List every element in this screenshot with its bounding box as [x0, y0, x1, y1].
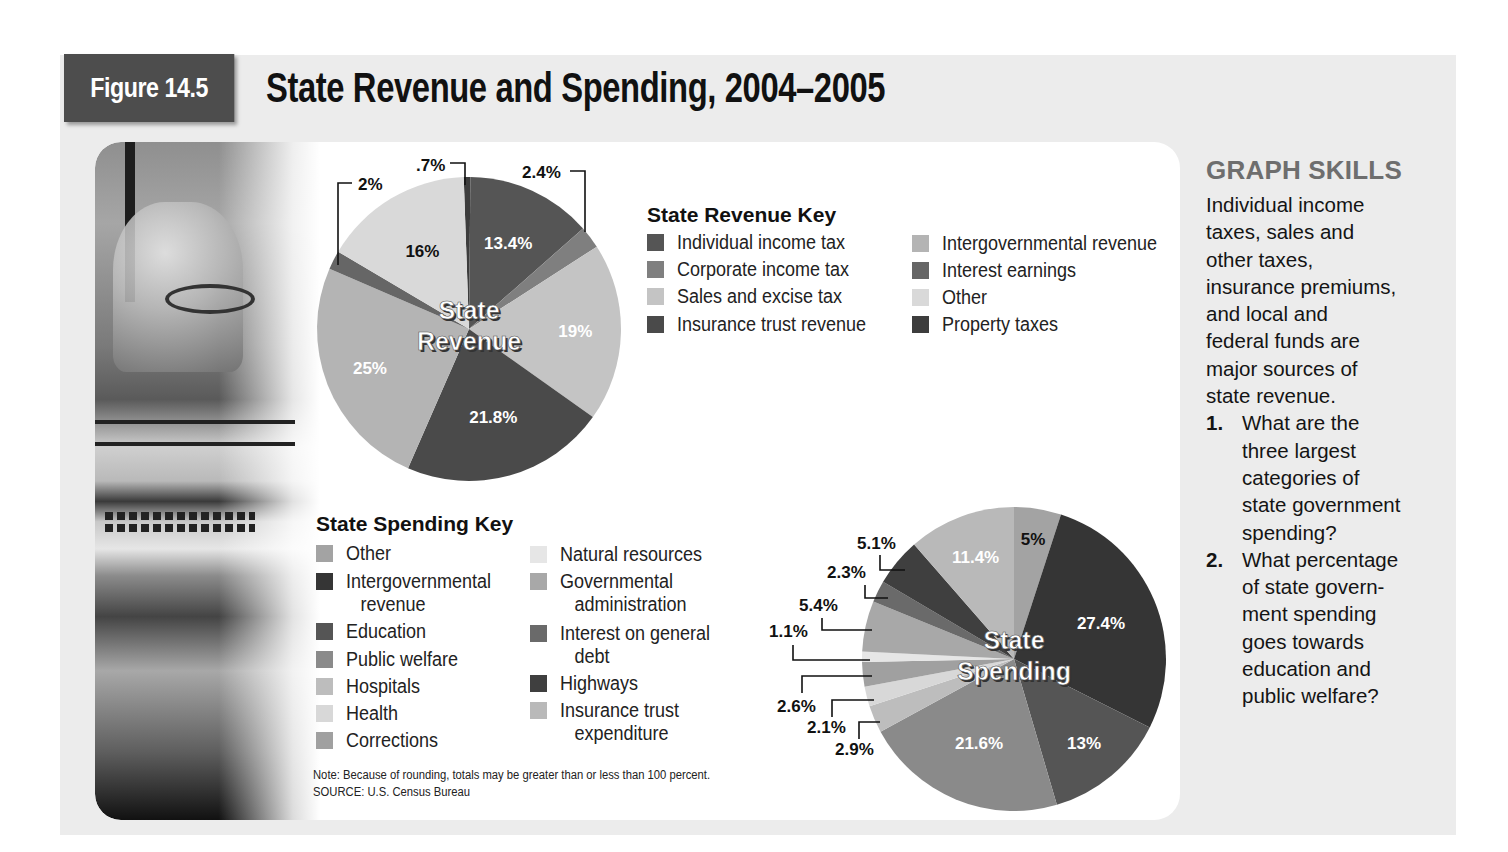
source-line: SOURCE: U.S. Census Bureau [313, 784, 710, 801]
pie-center-label: Revenue [417, 327, 521, 355]
legend-swatch [316, 623, 333, 640]
legend-label-continued: expenditure [560, 722, 679, 745]
pie-center-label: Spending [957, 657, 1071, 685]
legend-label: Property taxes [942, 313, 1058, 336]
callout-value-label: 2% [358, 175, 383, 194]
revenue-key-title: State Revenue Key [647, 203, 836, 227]
legend-swatch [912, 316, 929, 333]
legend-swatch [316, 705, 333, 722]
question-text: What percentageof state govern-ment spen… [1242, 546, 1398, 710]
callout-value-label: 5.1% [857, 534, 896, 553]
legend-label: Interest earnings [942, 259, 1076, 282]
legend-swatch [316, 651, 333, 668]
legend-swatch [530, 573, 547, 590]
slice-value-label: 21.6% [955, 734, 1003, 753]
callout-value-label: 5.4% [799, 596, 838, 615]
graph-skills-text-line: major sources of [1206, 355, 1441, 382]
legend-swatch [530, 702, 547, 719]
graph-skills-questions: 1.What are thethree largestcategories of… [1206, 409, 1441, 709]
leader-line [859, 722, 880, 739]
callout-value-label: .7% [416, 156, 445, 175]
graph-skills-text-line: insurance premiums, [1206, 273, 1441, 300]
leader-line [822, 618, 872, 630]
graph-skills-text-line: other taxes, [1206, 246, 1441, 273]
legend-label: Sales and excise tax [677, 285, 842, 308]
leader-line [802, 676, 872, 693]
leader-line [793, 645, 870, 660]
legend-label: Interest on generaldebt [560, 622, 710, 668]
legend-swatch [647, 316, 664, 333]
legend-label: Education [346, 620, 426, 643]
callout-value-label: 2.4% [522, 163, 561, 182]
pie-center-label: State [983, 626, 1044, 654]
slice-value-label: 19% [558, 322, 592, 341]
legend-swatch [912, 289, 929, 306]
legend-label: Natural resources [560, 543, 702, 566]
spending-key-title: State Spending Key [316, 512, 513, 536]
legend-label: Health [346, 702, 398, 725]
pie-center-label: State [438, 296, 499, 324]
slice-value-label: 21.8% [469, 408, 517, 427]
legend-label: Intergovernmentalrevenue [346, 570, 491, 616]
callout-value-label: 2.3% [827, 563, 866, 582]
legend-label: Insurance trust revenue [677, 313, 866, 336]
graph-skills-text-line: federal funds are [1206, 327, 1441, 354]
legend-swatch [530, 546, 547, 563]
callout-value-label: 2.1% [807, 718, 846, 737]
graph-skills-text-line: Individual income [1206, 191, 1441, 218]
legend-label: Hospitals [346, 675, 420, 698]
legend-swatch [316, 573, 333, 590]
graph-skills-question: 1.What are thethree largestcategories of… [1206, 409, 1441, 545]
graph-skills-text-line: state revenue. [1206, 382, 1441, 409]
legend-label: Highways [560, 672, 638, 695]
state-spending-pie: 5%27.4%13%21.6%11.4%StateStateSpendingSp… [862, 507, 1166, 811]
slice-value-label: 16% [405, 242, 439, 261]
question-number: 1. [1206, 409, 1242, 545]
callout-value-label: 2.9% [835, 740, 874, 759]
legend-swatch [912, 235, 929, 252]
slice-value-label: 27.4% [1077, 614, 1125, 633]
slice-value-label: 11.4% [952, 548, 999, 567]
callout-value-label: 2.6% [777, 697, 816, 716]
source-note: Note: Because of rounding, totals may be… [313, 767, 710, 801]
legend-label: Insurance trustexpenditure [560, 699, 679, 745]
legend-label: Other [942, 286, 987, 309]
slice-value-label: 5% [1021, 530, 1046, 549]
state-revenue-pie: 13.4%19%21.8%25%16%StateStateRevenueReve… [317, 177, 621, 481]
legend-swatch [530, 625, 547, 642]
slice-value-label: 13% [1067, 734, 1101, 753]
question-text: What are thethree largestcategories ofst… [1242, 409, 1400, 545]
graph-skills-body: Individual incometaxes, sales andother t… [1206, 191, 1441, 409]
legend-label: Governmentaladministration [560, 570, 686, 616]
legend-label-continued: administration [560, 593, 686, 616]
legend-label-continued: revenue [346, 593, 491, 616]
legend-label: Other [346, 542, 391, 565]
legend-swatch [530, 675, 547, 692]
graph-skills-title: GRAPH SKILLS [1206, 153, 1441, 187]
legend-label: Corporate income tax [677, 258, 849, 281]
legend-swatch [316, 732, 333, 749]
graph-skills-text-line: and local and [1206, 300, 1441, 327]
question-number: 2. [1206, 546, 1242, 710]
legend-label: Intergovernmental revenue [942, 232, 1157, 255]
slice-value-label: 13.4% [484, 234, 532, 253]
legend-swatch [912, 262, 929, 279]
legend-swatch [316, 545, 333, 562]
legend-label: Corrections [346, 729, 438, 752]
graph-skills-text-line: taxes, sales and [1206, 218, 1441, 245]
graph-skills-sidebar: GRAPH SKILLS Individual incometaxes, sal… [1206, 153, 1441, 710]
legend-label: Individual income tax [677, 231, 845, 254]
callout-value-label: 1.1% [769, 622, 808, 641]
rounding-note: Note: Because of rounding, totals may be… [313, 767, 710, 784]
legend-swatch [647, 288, 664, 305]
leader-line [832, 700, 874, 717]
slice-value-label: 25% [353, 359, 387, 378]
graph-skills-question: 2.What percentageof state govern-ment sp… [1206, 546, 1441, 710]
legend-label: Public welfare [346, 648, 458, 671]
legend-swatch [647, 261, 664, 278]
legend-label-continued: debt [560, 645, 710, 668]
legend-swatch [316, 678, 333, 695]
legend-swatch [647, 234, 664, 251]
